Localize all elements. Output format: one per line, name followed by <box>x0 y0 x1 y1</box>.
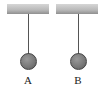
ceiling-b <box>56 4 98 14</box>
ceiling-a <box>7 4 49 14</box>
label-a: A <box>21 74 35 86</box>
string-a <box>28 14 29 54</box>
bob-b <box>70 53 87 70</box>
bob-a <box>20 53 37 70</box>
label-b: B <box>71 74 85 86</box>
string-b <box>78 14 79 54</box>
